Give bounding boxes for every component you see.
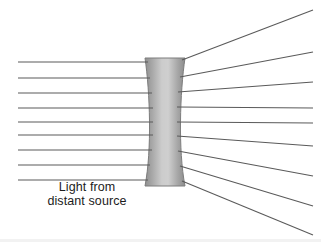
- diverging-outgoing-ray-6: [177, 136, 313, 146]
- diverging-outgoing-ray-5: [177, 122, 313, 123]
- optics-diagram: Light from distant source: [0, 0, 321, 242]
- outgoing-rays-group: [177, 10, 313, 235]
- caption-block: Light from distant source: [32, 180, 142, 208]
- diverging-outgoing-ray-1: [182, 10, 313, 60]
- diverging-outgoing-ray-7: [178, 151, 313, 176]
- diverging-outgoing-ray-9: [182, 181, 313, 235]
- diverging-outgoing-ray-4: [177, 107, 313, 108]
- incoming-rays-group: [18, 62, 153, 180]
- caption-line-1: Light from: [32, 180, 142, 194]
- diverging-outgoing-ray-3: [178, 82, 313, 92]
- diverging-outgoing-ray-2: [180, 52, 313, 77]
- caption-line-2: distant source: [32, 194, 142, 208]
